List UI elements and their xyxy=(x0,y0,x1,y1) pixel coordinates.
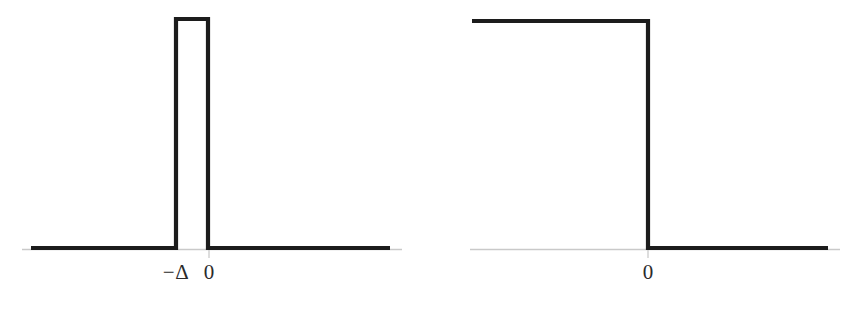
tick-label-zero: 0 xyxy=(643,262,654,283)
step-function-plot: 0 xyxy=(428,0,856,310)
step-curve xyxy=(472,21,828,248)
tick-label-minus-delta: −Δ xyxy=(163,262,189,283)
figure-container: −Δ 0 0 xyxy=(0,0,856,310)
pulse-curve xyxy=(31,19,390,248)
tick-label-zero: 0 xyxy=(204,262,215,283)
rectangular-pulse-plot: −Δ 0 xyxy=(0,0,428,310)
